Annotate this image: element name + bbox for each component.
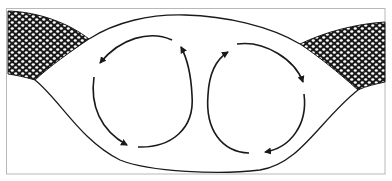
right-circulation-cell (208, 43, 305, 153)
lens-bottom-boundary (35, 80, 358, 172)
right-cell-arrow-left (208, 52, 249, 153)
left-cell-arrow-top (100, 36, 172, 63)
lens-top-boundary (89, 15, 300, 44)
right-cell-arrow-top (237, 43, 303, 82)
left-cell-arrow-right (138, 47, 192, 147)
left-hex-packed-region (8, 11, 89, 80)
right-hex-packed-region (300, 22, 385, 90)
right-cell-arrow-right (265, 94, 305, 152)
convection-diagram (0, 0, 392, 181)
diagram-stage (0, 0, 392, 181)
left-cell-arrow-left (93, 77, 127, 145)
left-circulation-cell (93, 36, 192, 147)
